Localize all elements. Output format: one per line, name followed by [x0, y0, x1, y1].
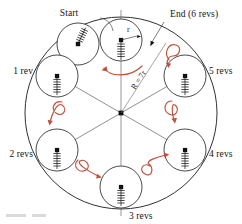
diagram-canvas: r: [0, 0, 242, 224]
red-loop-bottom-left: [76, 160, 102, 179]
scan-artifact: [6, 214, 26, 217]
rev2-label: 2 revs: [9, 149, 33, 159]
rev1-label: 1 rev: [13, 66, 33, 76]
rolling-circle-rev1: [36, 55, 78, 97]
rolling-circle-rev4: [164, 129, 206, 171]
radius-big-label: R = 7r: [129, 69, 148, 91]
rev3-label: 3 revs: [129, 211, 153, 221]
rolling-circle-rev3: [100, 166, 142, 208]
hypocycloid-figure: r: [0, 0, 242, 224]
end-leader-line: [152, 22, 164, 42]
red-loop-right: [165, 101, 177, 123]
radius-big-label-group: R = 7r: [129, 69, 148, 91]
end-label: End (6 revs): [170, 9, 218, 20]
start-label: Start: [60, 8, 79, 18]
rolling-circle-rev5: [164, 55, 206, 97]
rolling-circle-rev2: [36, 129, 78, 171]
radius-small-label: r: [127, 25, 130, 34]
rev5-label: 5 revs: [209, 66, 233, 76]
red-loop-left: [48, 102, 65, 126]
rolling-circle-start: r: [100, 19, 142, 61]
scan-artifact-2: [32, 214, 46, 217]
red-loop-bottom-right: [142, 153, 170, 175]
rev4-label: 4 revs: [209, 149, 233, 159]
